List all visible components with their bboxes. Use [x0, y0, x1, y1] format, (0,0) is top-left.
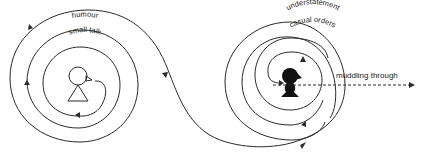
arrow-icon — [300, 56, 306, 62]
spiral-diagram: humour small talk understatement casual … — [0, 0, 421, 156]
left-spiral-arrows — [24, 24, 168, 118]
arrow-icon — [300, 142, 306, 149]
label-small-talk: small talk — [67, 25, 102, 37]
outline-person-icon — [68, 67, 92, 101]
label-muddling-through: muddling through — [336, 71, 398, 80]
arrow-icon — [162, 72, 168, 78]
arrow-icon — [75, 112, 80, 118]
label-understatement: understatement — [285, 0, 342, 13]
solid-person-icon — [281, 68, 302, 97]
left-spiral-inner-loop — [78, 81, 106, 116]
arrow-icon — [24, 80, 30, 85]
